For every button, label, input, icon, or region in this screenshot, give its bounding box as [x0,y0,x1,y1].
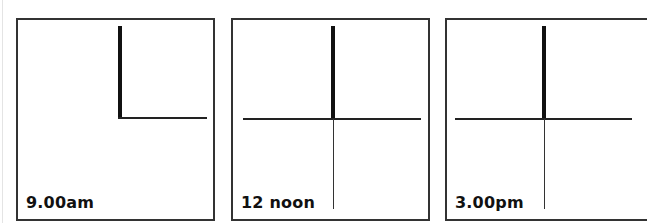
shadow-line-horizontal [118,117,207,119]
left-edge-rule [2,0,3,223]
vertical-line [544,119,546,209]
panel-3pm: 3.00pm [445,18,647,221]
time-label: 3.00pm [455,193,524,212]
stick [331,26,335,119]
stick [542,26,546,119]
stick [118,26,122,118]
vertical-line [333,119,335,209]
panel-12noon: 12 noon [231,18,430,221]
time-label: 9.00am [26,193,94,212]
time-label: 12 noon [241,193,315,212]
panel-9am: 9.00am [16,18,215,221]
